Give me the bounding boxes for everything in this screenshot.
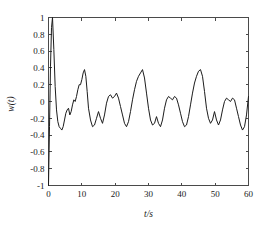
- y-tick-label: -0.4: [30, 130, 45, 140]
- y-axis-label: w(t): [6, 96, 17, 111]
- x-tick-label: 60: [244, 189, 254, 199]
- chart-figure: 0102030405060 -1-0.8-0.6-0.4-0.200.20.40…: [0, 0, 270, 232]
- x-axis-label: t/s: [144, 209, 153, 219]
- y-tick-label: -0.2: [30, 114, 44, 124]
- signal-line-chart: 0102030405060 -1-0.8-0.6-0.4-0.200.20.40…: [0, 0, 270, 232]
- x-tick-label: 30: [144, 189, 154, 199]
- x-axis-tick-labels: 0102030405060: [46, 189, 253, 199]
- y-tick-label: 0.8: [33, 30, 45, 40]
- x-tick-label: 40: [177, 189, 187, 199]
- y-axis-tick-labels: -1-0.8-0.6-0.4-0.200.20.40.60.81: [30, 13, 45, 191]
- plot-background: [48, 17, 249, 186]
- y-tick-label: 1: [40, 13, 45, 23]
- y-tick-label: 0.4: [33, 63, 45, 73]
- x-tick-label: 10: [77, 189, 87, 199]
- y-tick-label: 0.6: [33, 46, 45, 56]
- x-tick-label: 0: [46, 189, 51, 199]
- plot-frame: [48, 17, 249, 186]
- y-tick-label: -1: [37, 181, 45, 191]
- y-tick-label: 0: [40, 97, 45, 107]
- y-tick-label: 0.2: [33, 80, 44, 90]
- x-tick-label: 50: [211, 189, 221, 199]
- x-tick-label: 20: [111, 189, 121, 199]
- y-tick-label: -0.8: [30, 164, 45, 174]
- y-tick-label: -0.6: [30, 147, 45, 157]
